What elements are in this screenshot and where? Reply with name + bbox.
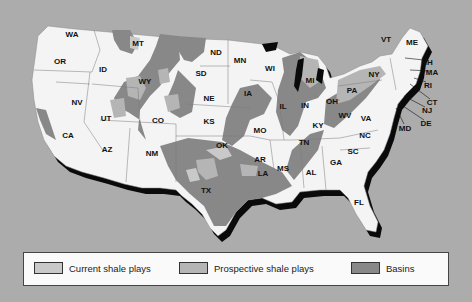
state-label-id: ID xyxy=(99,65,107,74)
current-shale-plays-swatch xyxy=(34,262,63,274)
map-legend: Current shale plays Prospective shale pl… xyxy=(23,252,449,286)
state-label-nm: NM xyxy=(146,149,159,158)
legend-item-prospective-shale-plays: Prospective shale plays xyxy=(179,262,314,274)
state-label-ga: GA xyxy=(330,158,342,167)
state-label-in: IN xyxy=(301,101,309,110)
state-label-mn: MN xyxy=(234,56,247,65)
state-label-wa: WA xyxy=(66,30,79,39)
state-label-ok: OK xyxy=(216,141,228,150)
state-label-nj: NJ xyxy=(422,106,432,115)
legend-item-current-shale-plays: Current shale plays xyxy=(34,262,151,274)
state-label-ma: MA xyxy=(426,68,439,77)
shale-map-figure: WAORIDMTNDMNWIMINYVTMEPAOHINILIANESDWYNV… xyxy=(0,0,472,302)
state-label-or: OR xyxy=(54,57,66,66)
state-label-nh: NH xyxy=(421,58,433,67)
state-label-oh: OH xyxy=(326,97,338,106)
state-label-de: DE xyxy=(420,119,432,128)
state-label-mt: MT xyxy=(132,39,144,48)
state-label-nc: NC xyxy=(359,131,371,140)
state-label-nd: ND xyxy=(210,48,222,57)
state-label-pa: PA xyxy=(347,86,358,95)
state-label-ut: UT xyxy=(101,114,112,123)
state-label-co: CO xyxy=(152,116,164,125)
state-label-ar: AR xyxy=(254,155,266,164)
legend-label: Prospective shale plays xyxy=(214,263,314,274)
state-label-ny: NY xyxy=(368,70,380,79)
state-label-me: ME xyxy=(406,38,419,47)
state-label-ms: MS xyxy=(277,164,290,173)
state-label-sc: SC xyxy=(347,147,358,156)
state-label-wi: WI xyxy=(265,64,275,73)
legend-label: Current shale plays xyxy=(69,263,151,274)
basins-swatch xyxy=(351,262,380,274)
state-label-il: IL xyxy=(279,102,286,111)
state-label-al: AL xyxy=(306,168,317,177)
us-map: WAORIDMTNDMNWIMINYVTMEPAOHINILIANESDWYNV… xyxy=(0,0,472,250)
state-label-mi: MI xyxy=(306,76,315,85)
state-label-az: AZ xyxy=(102,145,113,154)
state-label-ri: RI xyxy=(424,81,432,90)
state-label-va: VA xyxy=(361,114,372,123)
state-label-fl: FL xyxy=(354,198,364,207)
state-label-ca: CA xyxy=(62,131,74,140)
state-label-mo: MO xyxy=(254,126,267,135)
legend-label: Basins xyxy=(386,263,415,274)
state-label-sd: SD xyxy=(195,69,206,78)
state-label-md: MD xyxy=(399,124,412,133)
legend-item-basins: Basins xyxy=(351,262,415,274)
state-label-vt: VT xyxy=(381,35,391,44)
state-label-tx: TX xyxy=(201,186,212,195)
prospective-shale-plays-swatch xyxy=(179,262,208,274)
state-label-wy: WY xyxy=(139,77,153,86)
state-label-ne: NE xyxy=(203,94,215,103)
state-label-tn: TN xyxy=(299,138,310,147)
state-label-nv: NV xyxy=(71,98,83,107)
state-label-la: LA xyxy=(258,169,269,178)
state-label-wv: WV xyxy=(339,111,353,120)
state-label-ia: IA xyxy=(244,89,252,98)
state-label-ky: KY xyxy=(312,121,324,130)
state-label-ks: KS xyxy=(203,117,215,126)
